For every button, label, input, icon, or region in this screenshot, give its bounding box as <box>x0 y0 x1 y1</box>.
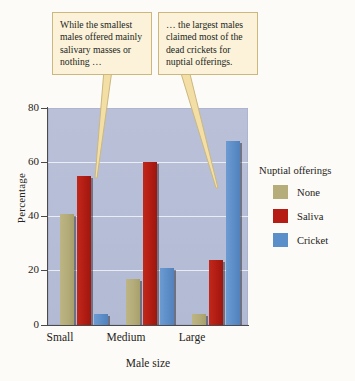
callout-left: While the smallest males offered mainly … <box>52 12 152 75</box>
legend: Nuptial offerings None Saliva Cricket <box>259 165 355 257</box>
bar-small-none[interactable] <box>60 214 74 325</box>
legend-item-saliva[interactable]: Saliva <box>259 209 355 223</box>
y-tick-label-60: 60 <box>28 156 39 167</box>
x-tick-label-large: Large <box>157 331 227 343</box>
legend-swatch-saliva-icon <box>273 209 288 223</box>
callout-right: … the largest males claimed most of the … <box>158 12 258 75</box>
bar-large-none[interactable] <box>192 314 206 325</box>
legend-label-none: None <box>297 187 320 198</box>
legend-title: Nuptial offerings <box>259 165 355 176</box>
bar-medium-cricket[interactable] <box>160 268 174 325</box>
bar-large-saliva[interactable] <box>209 260 223 325</box>
y-tick-label-0: 0 <box>34 319 40 330</box>
y-tick-label-80: 80 <box>28 102 39 113</box>
legend-label-cricket: Cricket <box>297 235 328 246</box>
legend-label-saliva: Saliva <box>297 211 323 222</box>
y-axis-title: Percentage <box>15 138 27 258</box>
x-tick-label-small: Small <box>25 331 95 343</box>
legend-item-cricket[interactable]: Cricket <box>259 233 355 247</box>
x-axis-line <box>47 325 249 326</box>
bar-small-cricket[interactable] <box>94 314 108 325</box>
y-tick-label-20: 20 <box>28 264 39 275</box>
bar-medium-none[interactable] <box>126 279 140 325</box>
y-tick-mark-40 <box>41 216 48 217</box>
y-tick-mark-20 <box>41 270 48 271</box>
legend-swatch-cricket-icon <box>273 233 288 247</box>
x-tick-label-medium: Medium <box>91 331 161 343</box>
bar-small-saliva[interactable] <box>77 176 91 325</box>
y-tick-label-40: 40 <box>28 210 39 221</box>
y-tick-mark-0 <box>41 325 48 326</box>
legend-item-none[interactable]: None <box>259 185 355 199</box>
figure-container: 80 60 40 20 0 Percentage Small Medium La… <box>0 0 355 381</box>
x-axis-title: Male size <box>48 357 248 369</box>
legend-swatch-none-icon <box>273 185 288 199</box>
